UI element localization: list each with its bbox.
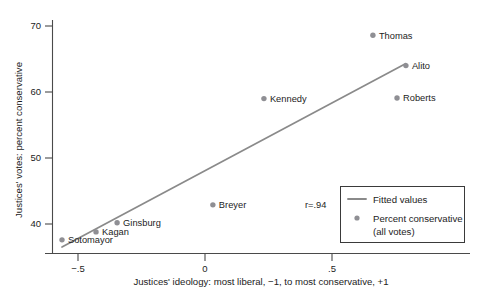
data-point-dot: [210, 202, 215, 207]
data-point: Thomas: [370, 31, 413, 41]
data-point: Kennedy: [261, 94, 307, 104]
data-point-dot: [59, 237, 64, 242]
x-axis-ticks: −.50.5: [71, 254, 336, 275]
data-point-label: Kagan: [102, 227, 129, 237]
plot-canvas: Justices' votes: percent conservative 40…: [0, 0, 482, 299]
data-point-label: Thomas: [379, 31, 413, 41]
data-point-dot: [261, 96, 266, 101]
data-point-dot: [394, 95, 399, 100]
data-point-label: Roberts: [403, 93, 436, 103]
data-point-label: Breyer: [219, 200, 246, 210]
y-axis-title: Justices' votes: percent conservative: [13, 62, 24, 218]
y-axis-ticks: 40506070: [30, 20, 52, 229]
y-tick-label: 50: [30, 152, 41, 163]
data-point-dot: [114, 220, 119, 225]
correlation-annotation: r=.94: [305, 200, 326, 210]
data-point: Alito: [403, 61, 430, 71]
data-point-label: Ginsburg: [123, 218, 161, 228]
y-tick-label: 60: [30, 86, 41, 97]
data-point: Breyer: [210, 200, 246, 210]
legend-label-fitted: Fitted values: [373, 194, 428, 205]
data-point: Roberts: [394, 93, 436, 103]
data-point-label: Alito: [412, 61, 430, 71]
data-point-dot: [370, 33, 375, 38]
x-tick-label: −.5: [71, 263, 84, 274]
legend-dot-swatch: [354, 215, 359, 220]
y-tick-label: 40: [30, 218, 41, 229]
x-tick-label: 0: [202, 263, 207, 274]
data-point-label: Kennedy: [270, 94, 307, 104]
x-tick-label: .5: [328, 263, 336, 274]
legend-label-points-line2: (all votes): [373, 226, 415, 237]
y-tick-label: 70: [30, 20, 41, 31]
data-point-dot: [403, 63, 408, 68]
scatter-plot-figure: Justices' votes: percent conservative 40…: [0, 0, 482, 299]
x-axis-title: Justices' ideology: most liberal, −1, to…: [133, 276, 388, 287]
data-point-dot: [93, 229, 98, 234]
legend: Fitted values Percent conservative (all …: [341, 187, 465, 243]
legend-label-points: Percent conservative: [373, 213, 463, 224]
